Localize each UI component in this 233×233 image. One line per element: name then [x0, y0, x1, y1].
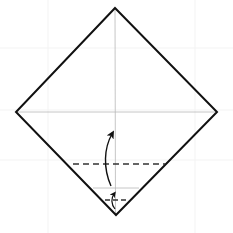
background-grid [0, 0, 233, 233]
fold-up-arrow-small [112, 194, 115, 209]
origami-diagram [0, 0, 233, 233]
diamond-square [16, 8, 217, 215]
diagram-canvas [0, 0, 233, 233]
vertical-center-crease [115, 9, 116, 214]
